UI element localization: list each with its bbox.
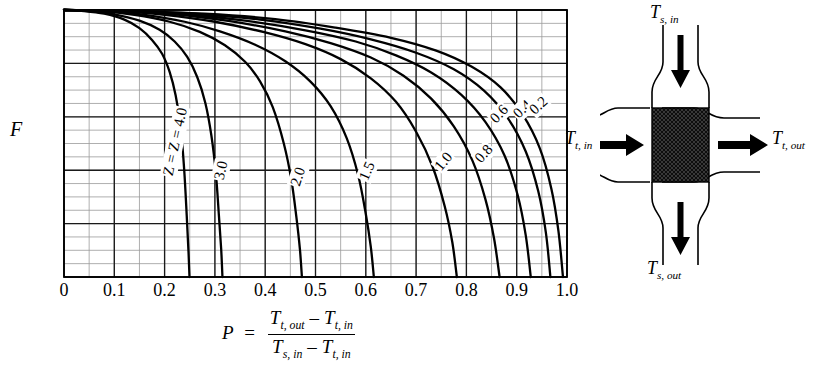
shell-out-sub: s, out (657, 269, 681, 281)
tube-out-sub: t, out (782, 139, 805, 151)
shell-in-var: T (650, 2, 660, 22)
tube-duct-bottom-left (600, 172, 650, 182)
arrow-shell-out (671, 202, 690, 255)
tube-duct-top-left (600, 108, 650, 118)
exchanger-core (652, 108, 709, 182)
num-right-var: T (324, 307, 335, 328)
shell-duct-left-top (652, 25, 663, 108)
curve-label-Z-4.0: Z = Z = 4.0 (160, 105, 191, 178)
curve-label-Z-2.0: 2.0 (287, 164, 310, 189)
tube-in-var: T (565, 128, 575, 148)
tube-out-var: T (772, 128, 782, 148)
formula-numerator: Tt, out–Tt, in (266, 307, 357, 334)
arrow-tube-in (600, 134, 644, 156)
formula-P: P = Tt, out–Tt, in Ts, in–Tt, in (222, 307, 357, 362)
num-right-sub: t, in (335, 319, 353, 332)
heat-exchanger-diagram: Ts, in Ts, out Tt, in Tt, out (600, 0, 838, 290)
label-shell-in: Ts, in (650, 2, 679, 25)
curve-label-Z-0.6: 0.6 (485, 101, 512, 128)
num-left-var: T (270, 307, 281, 328)
shell-duct-left-bottom (652, 182, 663, 265)
shell-duct-right-bottom (698, 182, 709, 265)
tube-in-sub: t, in (575, 139, 592, 151)
den-left-var: T (272, 336, 283, 357)
arrow-shell-in (671, 35, 690, 88)
figure-root: F 0.50.60.70.80.91.0 00.10.20.30.40.50.6… (0, 0, 838, 367)
num-left-sub: t, out (280, 319, 304, 332)
label-shell-out: Ts, out (647, 258, 681, 281)
curve-label-Z-0.8: 0.8 (471, 140, 498, 167)
curve-label-Z-1.5: 1.5 (355, 158, 379, 184)
formula-equals: = (244, 322, 255, 343)
shell-in-sub: s, in (660, 13, 679, 25)
formula-fraction: Tt, out–Tt, in Ts, in–Tt, in (266, 307, 357, 362)
den-left-sub: s, in (283, 348, 303, 361)
label-tube-in: Tt, in (565, 128, 592, 151)
shell-duct-right-top (698, 25, 709, 108)
lmtd-correction-chart: F 0.50.60.70.80.91.0 00.10.20.30.40.50.6… (0, 0, 600, 300)
den-minus: – (307, 336, 317, 357)
formula-lhs: P (222, 322, 234, 343)
formula-denominator: Ts, in–Tt, in (268, 334, 355, 362)
curve-labels: Z = Z = 4.03.02.01.51.00.80.60.40.2 (0, 0, 600, 300)
den-right-sub: t, in (332, 348, 350, 361)
arrow-tube-out (718, 134, 768, 156)
shell-out-var: T (647, 258, 657, 278)
curve-label-Z-3.0: 3.0 (211, 158, 232, 182)
label-tube-out: Tt, out (772, 128, 805, 151)
curve-label-Z-1.0: 1.0 (430, 148, 456, 175)
num-minus: – (310, 307, 320, 328)
den-right-var: T (322, 336, 333, 357)
